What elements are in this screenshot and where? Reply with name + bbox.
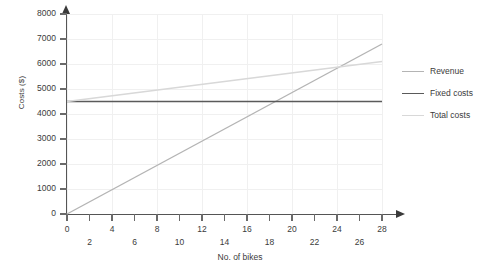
series-lines: [0, 0, 480, 278]
legend-label: Revenue: [430, 66, 464, 76]
legend-line-swatch: [402, 93, 424, 94]
series-line-revenue: [67, 44, 382, 214]
series-line-total-costs: [67, 62, 382, 102]
legend-line-swatch: [402, 71, 424, 72]
legend-item-revenue[interactable]: Revenue: [402, 60, 480, 82]
legend-item-total-costs[interactable]: Total costs: [402, 104, 480, 126]
legend-label: Fixed costs: [430, 88, 473, 98]
chart-figure: Costs ($) 010002000300040005000600070008…: [0, 0, 480, 278]
chart-legend: RevenueFixed costsTotal costs: [402, 60, 480, 126]
legend-item-fixed-costs[interactable]: Fixed costs: [402, 82, 480, 104]
legend-line-swatch: [402, 115, 424, 116]
legend-label: Total costs: [430, 110, 470, 120]
x-axis-title: No. of bikes: [0, 252, 480, 262]
